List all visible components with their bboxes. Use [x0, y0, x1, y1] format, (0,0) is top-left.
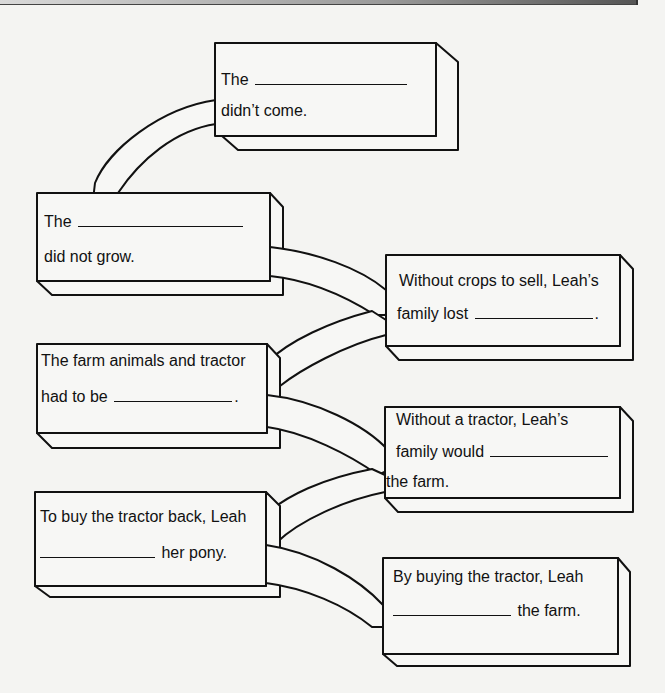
connector-arrow-6 [266, 545, 388, 627]
box-6-text: her pony. [161, 544, 227, 561]
box-4-text: . [234, 388, 238, 405]
answer-blank[interactable] [490, 455, 608, 457]
box-4-line-1: The farm animals and tractor [41, 353, 246, 369]
box-2-text: did not grow. [44, 248, 135, 265]
answer-blank[interactable] [255, 83, 407, 85]
box-1-text: The [221, 71, 249, 88]
box-3-text: . [595, 305, 599, 322]
box-1-line-1: The [221, 72, 409, 88]
box-5-line-3: the farm. [386, 474, 449, 490]
answer-blank[interactable] [40, 556, 155, 558]
box-4-line-2: had to be . [41, 389, 239, 405]
box-6-text: To buy the tractor back, Leah [40, 508, 246, 525]
box-5-line-2: family would [396, 444, 610, 460]
box-1-text: didn’t come. [221, 102, 307, 119]
box-7-text: By buying the tractor, Leah [393, 568, 583, 585]
connector-arrow-4 [267, 395, 393, 475]
answer-blank[interactable] [393, 614, 511, 616]
box-3-text: family lost [397, 305, 468, 322]
connector-arrow-1 [93, 100, 216, 200]
box-2-text: The [44, 213, 72, 230]
box-2-line-1: The [44, 214, 245, 230]
connector-arrow-2 [270, 247, 392, 315]
box-6-line-1: To buy the tractor back, Leah [40, 509, 246, 525]
answer-blank[interactable] [78, 225, 243, 227]
answer-blank[interactable] [114, 400, 232, 402]
box-5-line-1: Without a tractor, Leah’s [396, 412, 568, 428]
diagram-canvas [0, 0, 665, 693]
box-7-line-2: the farm. [393, 603, 581, 619]
box-7-line-1: By buying the tractor, Leah [393, 569, 583, 585]
box-3-line-1: Without crops to sell, Leah’s [399, 273, 599, 289]
box-6-line-2: her pony. [40, 545, 227, 561]
box-2-shape [37, 193, 283, 295]
answer-blank[interactable] [475, 317, 593, 319]
box-4-text: The farm animals and tractor [41, 352, 246, 369]
box-5-text: the farm. [386, 473, 449, 490]
box-3-line-2: family lost . [397, 306, 599, 322]
box-2-line-2: did not grow. [44, 249, 135, 265]
box-7-text: the farm. [517, 602, 580, 619]
box-1-line-2: didn’t come. [221, 103, 307, 119]
box-1-shape [215, 43, 458, 150]
box-5-text: Without a tractor, Leah’s [396, 411, 568, 428]
box-4-text: had to be [41, 388, 108, 405]
box-3-text: Without crops to sell, Leah’s [399, 272, 599, 289]
box-5-text: family would [396, 443, 484, 460]
